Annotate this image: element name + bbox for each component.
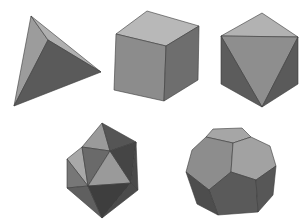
octahedron (221, 13, 298, 107)
platonic-solids-illustration (0, 0, 308, 221)
tetrahedron (14, 16, 101, 106)
cube (114, 11, 199, 101)
icosahedron (67, 123, 138, 218)
dodecahedron (186, 128, 276, 215)
